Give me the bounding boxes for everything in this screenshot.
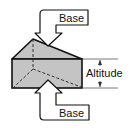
arrow-up-icon <box>98 60 102 65</box>
top-base-label: Base <box>59 12 84 24</box>
altitude-label: Altitude <box>86 67 123 79</box>
top-base-arrow: Base <box>35 10 88 46</box>
arrow-down-icon <box>98 82 102 87</box>
bottom-base-label: Base <box>59 107 84 119</box>
triangular-prism-diagram: Base Base Altitude <box>0 0 137 130</box>
altitude-dimension: Altitude <box>83 59 123 88</box>
